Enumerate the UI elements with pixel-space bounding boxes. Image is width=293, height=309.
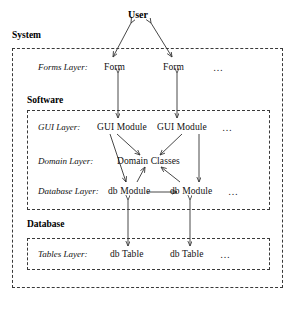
label-forms-layer: Forms Layer: [38, 62, 88, 72]
ellipsis-db-tables: … [220, 249, 231, 260]
label-database-layer: Database Layer: [38, 186, 99, 196]
node-form-2: Form [163, 62, 184, 72]
label-system: System [12, 30, 41, 40]
node-form-1: Form [104, 62, 125, 72]
label-database: Database [27, 219, 64, 229]
node-user: User [128, 9, 148, 20]
node-domain-classes: Domain Classes [117, 156, 180, 166]
architecture-diagram: User System Software Database Forms Laye… [0, 0, 293, 309]
ellipsis-db-modules: … [228, 186, 239, 197]
ellipsis-gui: … [222, 122, 233, 133]
node-gui-module-1: GUI Module [97, 122, 147, 132]
node-db-table-1: db Table [110, 249, 143, 259]
node-db-module-1: db Module [108, 186, 150, 196]
node-gui-module-2: GUI Module [157, 122, 207, 132]
node-db-module-2: db Module [170, 186, 212, 196]
label-tables-layer: Tables Layer: [38, 249, 87, 259]
label-gui-layer: GUI Layer: [38, 122, 80, 132]
label-software: Software [27, 95, 63, 105]
node-db-table-2: db Table [170, 249, 203, 259]
ellipsis-forms: … [213, 62, 224, 73]
label-domain-layer: Domain Layer: [38, 156, 93, 166]
